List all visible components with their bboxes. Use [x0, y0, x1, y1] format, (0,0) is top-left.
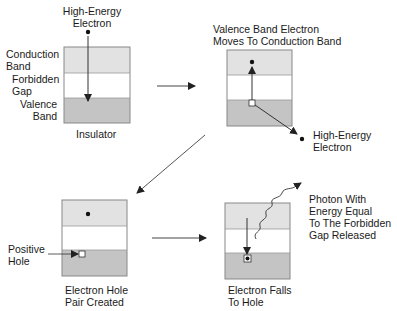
- photon-label: Photon With Energy Equal To The Forbidde…: [309, 193, 391, 241]
- conduction-band: [64, 47, 130, 73]
- electron-dot: [300, 137, 304, 141]
- forbidden-gap: [64, 73, 130, 98]
- conduction-band-label: Conduction Band: [6, 48, 59, 72]
- electron-dot: [250, 60, 254, 64]
- hole-pair-caption: Electron Hole Pair Created: [65, 284, 128, 308]
- positive-hole-label: Positive Hole: [8, 243, 45, 267]
- valence-band: [64, 98, 130, 123]
- step-arrow-2: [137, 135, 205, 193]
- high-energy-electron-label-2: High-Energy Electron: [313, 129, 371, 153]
- hole-square: [79, 251, 85, 257]
- panel-hole-pair: [48, 200, 127, 276]
- panel-recombination: [225, 183, 301, 279]
- hole-square: [249, 100, 255, 106]
- panel-electron-moves: [227, 50, 304, 141]
- high-energy-electron-label: High-Energy Electron: [62, 5, 122, 29]
- valence-band-label: Valence Band: [20, 98, 57, 122]
- electron-dot: [86, 30, 90, 34]
- electron-dot: [246, 257, 250, 261]
- insulator-caption: Insulator: [76, 128, 116, 140]
- electron-falls-caption: Electron Falls To Hole: [228, 284, 292, 308]
- electron-dot: [86, 212, 90, 216]
- forbidden-gap-label: Forbidden Gap: [12, 73, 59, 97]
- panel-insulator: [64, 30, 130, 123]
- valence-moves-title: Valence Band Electron Moves To Conductio…: [213, 23, 341, 47]
